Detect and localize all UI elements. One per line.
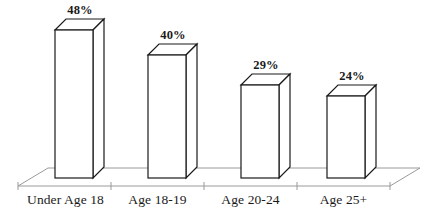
bar-value-label-age-25-plus: 24% [322, 69, 382, 84]
bar-under-age-18[interactable] [55, 19, 104, 178]
category-label-age-25-plus: Age 25+ [297, 192, 390, 208]
category-label-under-age-18: Under Age 18 [8, 192, 123, 208]
category-label-age-18-19: Age 18-19 [111, 192, 204, 208]
bar-value-label-age-20-24: 29% [236, 58, 296, 73]
category-label-age-20-24: Age 20-24 [204, 192, 297, 208]
bar-chart: 48% 40% 29% 24% Under Age 18 Age 18-19 A… [0, 0, 431, 220]
bar-value-label-age-18-19: 40% [143, 28, 203, 43]
chart-canvas [0, 0, 431, 220]
bar-age-25-plus[interactable] [327, 85, 376, 178]
bar-age-18-19[interactable] [148, 44, 197, 178]
bar-age-20-24[interactable] [241, 74, 290, 178]
bar-value-label-under-age-18: 48% [50, 3, 110, 18]
